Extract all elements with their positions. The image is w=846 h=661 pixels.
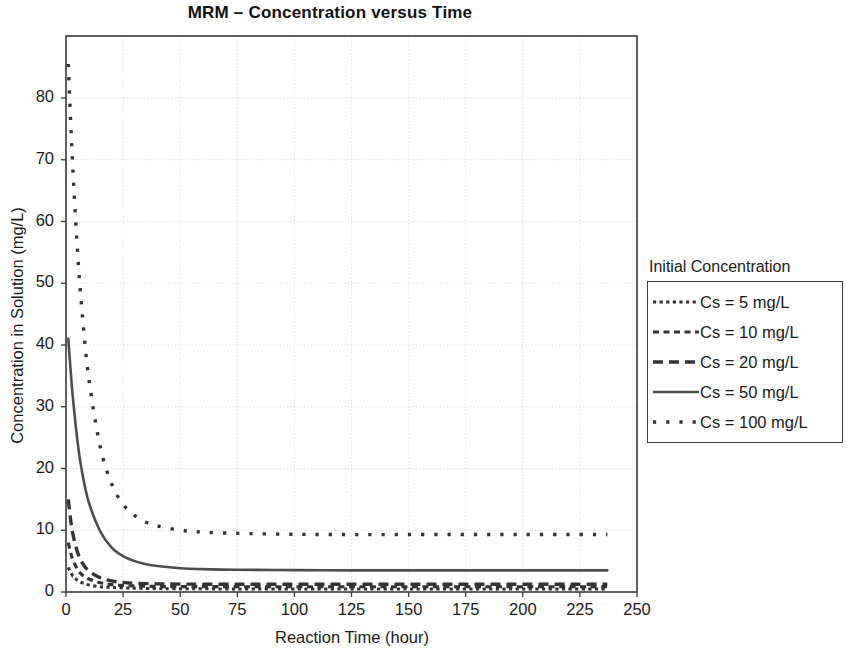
x-tick-label: 75 [207, 600, 267, 619]
x-tick-label: 100 [264, 600, 324, 619]
legend-box: Cs = 5 mg/LCs = 10 mg/LCs = 20 mg/LCs = … [647, 281, 843, 443]
x-axis-label: Reaction Time (hour) [66, 628, 638, 647]
legend-item-label: Cs = 10 mg/L [700, 323, 799, 342]
legend-item[interactable]: Cs = 5 mg/L [652, 287, 839, 317]
x-tick-label: 25 [93, 600, 153, 619]
data-series-group [68, 64, 607, 589]
series-line [68, 64, 607, 535]
x-tick-label: 50 [150, 600, 210, 619]
x-tick-label: 0 [36, 600, 96, 619]
x-tick-label: 225 [550, 600, 610, 619]
y-tick-label: 0 [10, 581, 54, 600]
legend-line-swatch [652, 415, 700, 429]
y-tick-label: 80 [10, 87, 54, 106]
legend-item[interactable]: Cs = 10 mg/L [652, 317, 839, 347]
legend-line-swatch [652, 355, 700, 369]
legend-item[interactable]: Cs = 50 mg/L [652, 377, 839, 407]
series-line [68, 339, 607, 571]
legend-item[interactable]: Cs = 100 mg/L [652, 407, 839, 437]
legend-title: Initial Concentration [647, 258, 843, 276]
y-tick-label: 70 [10, 149, 54, 168]
gridlines [66, 36, 637, 592]
x-tick-label: 250 [607, 600, 667, 619]
x-tick-label: 175 [436, 600, 496, 619]
x-tick-label: 125 [322, 600, 382, 619]
legend-item-label: Cs = 100 mg/L [700, 413, 808, 432]
legend-item-label: Cs = 20 mg/L [700, 353, 799, 372]
legend-item-label: Cs = 50 mg/L [700, 383, 799, 402]
y-tick-label: 10 [10, 519, 54, 538]
x-tick-label: 150 [379, 600, 439, 619]
legend-line-swatch [652, 385, 700, 399]
legend-item[interactable]: Cs = 20 mg/L [652, 347, 839, 377]
x-tick-label: 200 [493, 600, 553, 619]
legend-item-label: Cs = 5 mg/L [700, 293, 789, 312]
y-axis-label: Concentration in Solution (mg/L) [8, 176, 27, 476]
legend-line-swatch [652, 295, 700, 309]
legend-line-swatch [652, 325, 700, 339]
chart-figure: MRM – Concentration versus Time 01020304… [0, 0, 846, 661]
legend: Initial Concentration Cs = 5 mg/LCs = 10… [647, 258, 843, 443]
